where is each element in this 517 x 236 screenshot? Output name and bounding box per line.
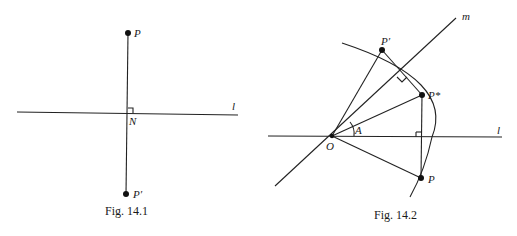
point-p-prime xyxy=(379,47,385,53)
label-l: l xyxy=(232,100,235,112)
label-angle-a: A xyxy=(354,124,362,136)
angle-arc-a xyxy=(350,122,354,136)
point-o xyxy=(330,134,334,138)
label-m: m xyxy=(462,10,470,22)
segment-p-star-p xyxy=(421,95,422,178)
caption-fig-14-1: Fig. 14.1 xyxy=(105,204,148,218)
right-angle-marker xyxy=(128,108,133,113)
label-l: l xyxy=(497,124,500,136)
label-n: N xyxy=(128,115,137,127)
label-p: P xyxy=(133,27,141,39)
label-p-prime: P′ xyxy=(132,188,143,200)
point-p xyxy=(125,30,131,36)
figure-14-1: P N P′ l Fig. 14.1 xyxy=(17,27,238,218)
diagram-canvas: P N P′ l Fig. 14.1 P′ P* P O xyxy=(0,0,517,236)
label-p: P xyxy=(427,173,435,185)
line-m xyxy=(275,18,456,186)
label-p-prime: P′ xyxy=(380,35,391,47)
right-angle-marker-m xyxy=(397,77,407,82)
segment-o-p-star xyxy=(332,95,422,136)
segment-p-prime-p-star xyxy=(382,50,422,95)
segment-o-p xyxy=(332,136,421,178)
line-l xyxy=(268,136,502,137)
figure-14-2: P′ P* P O A l m Fig. 14.2 xyxy=(268,10,502,222)
label-o: O xyxy=(326,140,334,152)
point-p-star xyxy=(419,92,425,98)
point-p-prime xyxy=(123,191,129,197)
caption-fig-14-2: Fig. 14.2 xyxy=(374,208,417,222)
label-p-star: P* xyxy=(427,89,441,101)
point-p xyxy=(418,175,424,181)
